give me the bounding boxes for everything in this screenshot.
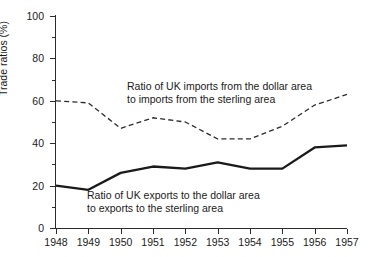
series-layer bbox=[0, 0, 374, 257]
exports-annotation-line2: to exports to the sterling area bbox=[87, 202, 260, 215]
trade-ratios-chart: Trade ratios (%) 020406080100 1948194919… bbox=[0, 0, 374, 257]
exports-annotation: Ratio of UK exports to the dollar area t… bbox=[87, 189, 260, 214]
exports-annotation-line1: Ratio of UK exports to the dollar area bbox=[87, 189, 260, 202]
imports-annotation-line2: to imports from the sterling area bbox=[127, 93, 312, 106]
imports-annotation: Ratio of UK imports from the dollar area… bbox=[127, 80, 312, 105]
exports-ratio-line bbox=[56, 145, 347, 190]
imports-annotation-line1: Ratio of UK imports from the dollar area bbox=[127, 80, 312, 93]
